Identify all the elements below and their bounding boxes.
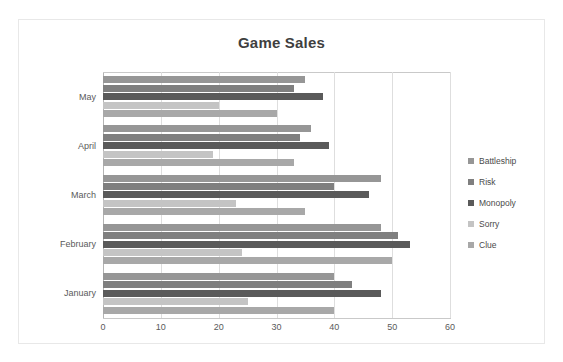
bar-april-monopoly — [103, 142, 329, 149]
legend-item-battleship: Battleship — [468, 150, 546, 171]
bar-february-battleship — [103, 224, 381, 231]
bar-january-risk — [103, 281, 352, 288]
bar-february-clue — [103, 257, 392, 264]
x-axis-tick-50: 50 — [387, 322, 397, 332]
bar-march-risk — [103, 183, 334, 190]
legend-item-clue: Clue — [468, 234, 546, 255]
x-axis-tick-30: 30 — [271, 322, 281, 332]
bar-march-clue — [103, 208, 305, 215]
x-axis-tick-20: 20 — [214, 322, 224, 332]
x-axis-tick-60: 60 — [445, 322, 455, 332]
bar-may-risk — [103, 85, 294, 92]
legend-label-risk: Risk — [479, 177, 496, 187]
legend-item-monopoly: Monopoly — [468, 192, 546, 213]
bar-group-may — [103, 72, 450, 121]
bar-march-battleship — [103, 175, 381, 182]
y-axis-label-april: April — [16, 141, 96, 151]
x-axis-line — [103, 318, 451, 319]
legend-swatch-icon-clue — [468, 242, 474, 248]
bar-march-sorry — [103, 200, 236, 207]
chart-legend: BattleshipRiskMonopolySorryClue — [468, 150, 546, 255]
gridline-x-60 — [450, 72, 451, 318]
legend-label-battleship: Battleship — [479, 156, 516, 166]
chart-container: Game Sales MayAprilMarchFebruaryJanuary … — [0, 0, 563, 362]
bar-april-sorry — [103, 151, 213, 158]
legend-label-sorry: Sorry — [479, 219, 499, 229]
legend-item-sorry: Sorry — [468, 213, 546, 234]
bar-group-february — [103, 220, 450, 269]
legend-label-monopoly: Monopoly — [479, 198, 516, 208]
bar-january-clue — [103, 307, 334, 314]
bar-may-monopoly — [103, 93, 323, 100]
plot-area — [103, 72, 450, 318]
y-axis-label-january: January — [16, 288, 96, 298]
legend-swatch-icon-battleship — [468, 158, 474, 164]
legend-label-clue: Clue — [479, 240, 496, 250]
bar-february-risk — [103, 232, 398, 239]
legend-swatch-icon-sorry — [468, 221, 474, 227]
y-axis-label-may: May — [16, 92, 96, 102]
bar-february-monopoly — [103, 241, 410, 248]
x-axis-tick-10: 10 — [156, 322, 166, 332]
bar-january-battleship — [103, 273, 334, 280]
y-axis-label-february: February — [16, 239, 96, 249]
bar-group-april — [103, 121, 450, 170]
y-axis-category-labels: MayAprilMarchFebruaryJanuary — [8, 72, 96, 318]
bar-april-risk — [103, 134, 300, 141]
x-axis-tick-40: 40 — [329, 322, 339, 332]
bar-january-sorry — [103, 298, 248, 305]
bar-april-clue — [103, 159, 294, 166]
bar-may-battleship — [103, 76, 305, 83]
chart-title: Game Sales — [0, 34, 563, 51]
bar-may-clue — [103, 110, 277, 117]
bar-january-monopoly — [103, 290, 381, 297]
bar-march-monopoly — [103, 191, 369, 198]
bar-group-january — [103, 269, 450, 318]
x-axis-tick-0: 0 — [100, 322, 105, 332]
bar-group-march — [103, 170, 450, 219]
bar-february-sorry — [103, 249, 242, 256]
y-axis-label-march: March — [16, 190, 96, 200]
legend-swatch-icon-risk — [468, 179, 474, 185]
legend-item-risk: Risk — [468, 171, 546, 192]
bar-may-sorry — [103, 102, 219, 109]
bar-april-battleship — [103, 125, 311, 132]
legend-swatch-icon-monopoly — [468, 200, 474, 206]
